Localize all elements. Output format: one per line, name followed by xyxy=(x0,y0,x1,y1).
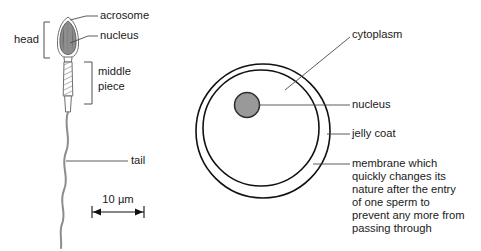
sperm-end-piece xyxy=(65,96,72,112)
scale-bar-label: 10 µm xyxy=(102,193,133,205)
sperm-neck xyxy=(64,57,72,62)
head-label: head xyxy=(14,33,39,45)
egg-nucleus-circle xyxy=(235,93,260,118)
cytoplasm-label: cytoplasm xyxy=(352,28,402,40)
tail-label: tail xyxy=(131,154,145,166)
middle-piece-label-line1: middle xyxy=(98,65,131,77)
egg-membrane-circle xyxy=(203,70,319,186)
scale-bar-arrow-left xyxy=(93,208,101,215)
membrane-label-line1: membrane which xyxy=(352,157,437,169)
membrane-label-line6: passing through xyxy=(352,222,432,234)
sperm-nucleus-label: nucleus xyxy=(100,29,139,41)
membrane-label-line5: prevent any more from xyxy=(352,209,465,221)
diagram-canvas: head acrosome nucleus middle piece tail … xyxy=(0,0,481,251)
egg-cell-figure: cytoplasm nucleus jelly coat membrane wh… xyxy=(196,28,465,234)
membrane-label-line3: nature after the entry xyxy=(352,183,456,195)
jelly-coat-label: jelly coat xyxy=(351,127,396,139)
membrane-label-line4: of one sperm to xyxy=(352,196,430,208)
head-bracket xyxy=(44,22,50,58)
sperm-cell-figure: head acrosome nucleus middle piece tail … xyxy=(14,9,149,248)
acrosome-leader-line xyxy=(70,16,98,20)
membrane-description: membrane which quickly changes its natur… xyxy=(352,157,465,234)
cytoplasm-leader-line xyxy=(285,37,350,90)
sperm-tail xyxy=(61,112,69,248)
scale-bar-arrow-right xyxy=(135,208,143,215)
membrane-label-line2: quickly changes its xyxy=(352,170,446,182)
egg-nucleus-label: nucleus xyxy=(352,98,391,110)
middle-piece-bracket xyxy=(84,62,92,104)
scale-bar: 10 µm xyxy=(92,193,144,218)
acrosome-label: acrosome xyxy=(100,9,149,21)
egg-jelly-coat-circle xyxy=(196,64,330,198)
biology-diagram: head acrosome nucleus middle piece tail … xyxy=(0,0,481,251)
middle-piece-label-line2: piece xyxy=(98,80,125,92)
